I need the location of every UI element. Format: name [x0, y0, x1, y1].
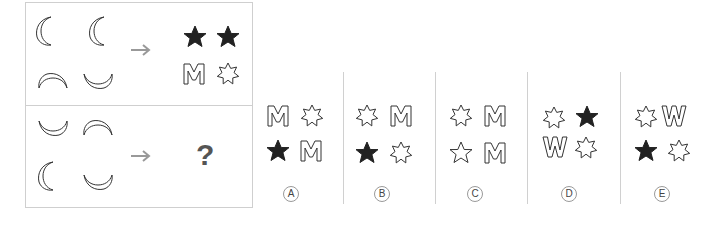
option-divider	[620, 72, 621, 204]
crescent-down-icon	[81, 66, 115, 94]
star5-filled-icon	[216, 25, 240, 49]
letter-m-outline-icon	[299, 139, 323, 163]
question-mark: ?	[196, 140, 214, 170]
star5-filled-icon	[634, 139, 658, 163]
option-label-a: A	[283, 186, 299, 202]
crescent-up-icon	[81, 115, 115, 143]
letter-m-outline-icon	[483, 104, 507, 128]
star5-filled-icon	[575, 105, 599, 129]
crescent-down-icon	[81, 167, 115, 195]
crescent-up-icon	[36, 68, 70, 96]
option-divider	[527, 72, 528, 204]
crescent-left-icon	[32, 160, 62, 192]
option-label-e: E	[654, 186, 670, 202]
star5-outline-icon	[449, 141, 473, 165]
star7-outline-icon	[300, 104, 324, 128]
star7-outline-icon	[216, 62, 240, 86]
letter-w-outline-icon	[660, 104, 688, 128]
star7-outline-icon	[449, 104, 473, 128]
letter-m-outline-icon	[182, 62, 206, 86]
option-label-c: C	[467, 186, 483, 202]
option-label-d: D	[561, 186, 577, 202]
option-divider	[343, 72, 344, 204]
star7-outline-icon	[634, 105, 658, 129]
arrow-right-icon	[130, 44, 152, 56]
star7-outline-icon	[667, 139, 691, 163]
arrow-right-icon	[130, 150, 152, 162]
crescent-left-icon	[83, 15, 113, 47]
letter-m-outline-icon	[266, 104, 290, 128]
crescent-down-icon	[36, 113, 70, 141]
letter-m-outline-icon	[389, 104, 413, 128]
star5-filled-icon	[183, 25, 207, 49]
option-divider	[435, 72, 436, 204]
star7-outline-icon	[355, 104, 379, 128]
crescent-left-icon	[30, 15, 60, 47]
letter-m-outline-icon	[483, 141, 507, 165]
frame-divider	[26, 105, 252, 106]
option-label-b: B	[374, 186, 390, 202]
star7-outline-icon	[574, 136, 598, 160]
letter-w-outline-icon	[541, 135, 569, 159]
star7-outline-icon	[542, 106, 566, 130]
star5-filled-icon	[355, 141, 379, 165]
star5-filled-icon	[266, 139, 290, 163]
star7-outline-icon	[389, 141, 413, 165]
